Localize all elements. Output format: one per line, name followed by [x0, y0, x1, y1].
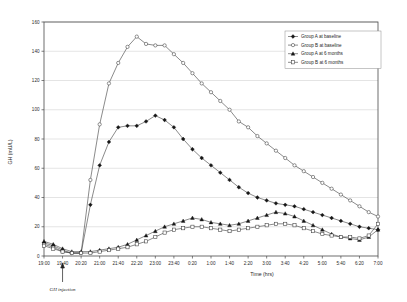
marker-4-23	[256, 225, 259, 228]
marker-4-27	[293, 224, 296, 227]
marker-1-12	[153, 114, 157, 118]
marker-4-29	[311, 230, 314, 233]
marker-2-15	[182, 61, 185, 64]
marker-4-28	[302, 227, 305, 230]
series-line-3	[44, 212, 378, 251]
marker-legend-4	[291, 61, 294, 64]
marker-4-7	[107, 249, 110, 252]
marker-4-15	[182, 227, 185, 230]
marker-3-12	[153, 229, 157, 232]
x-tick-label: 1:40	[225, 261, 234, 266]
marker-4-34	[358, 237, 361, 240]
marker-2-19	[219, 99, 222, 102]
marker-4-26	[284, 222, 287, 225]
marker-2-34	[358, 205, 361, 208]
x-tick-label: 23:00	[150, 261, 162, 266]
marker-4-17	[200, 225, 203, 228]
marker-1-29	[311, 210, 315, 214]
x-tick-label: 21:40	[112, 261, 124, 266]
chart-legend: Group A at baselineGroup B at baselineGr…	[285, 31, 381, 68]
series-3	[42, 210, 380, 253]
marker-2-14	[172, 53, 175, 56]
marker-4-21	[237, 228, 240, 231]
y-axis-ticks: 020406080100120140160	[32, 20, 44, 259]
marker-2-32	[339, 193, 342, 196]
x-tick-label: 7:00	[374, 261, 383, 266]
marker-4-3	[70, 251, 73, 254]
series-1	[42, 114, 380, 255]
marker-4-1	[52, 247, 55, 250]
x-tick-label: 21:00	[94, 261, 106, 266]
marker-2-18	[209, 91, 212, 94]
marker-2-35	[367, 210, 370, 213]
marker-1-27	[293, 204, 297, 208]
marker-2-12	[154, 44, 157, 47]
marker-1-9	[126, 124, 130, 128]
x-axis-title: Time (hrs)	[250, 271, 274, 277]
marker-4-19	[219, 228, 222, 231]
x-tick-label: 20:20	[75, 261, 87, 266]
marker-4-33	[349, 235, 352, 238]
marker-2-17	[200, 82, 203, 85]
marker-legend-2	[291, 43, 294, 46]
marker-2-7	[107, 82, 110, 85]
marker-2-26	[284, 156, 287, 159]
y-tick-label: 140	[32, 49, 40, 54]
marker-2-5	[89, 178, 92, 181]
x-tick-label: 5:40	[336, 261, 345, 266]
y-axis-title: GH (mU/L)	[7, 139, 13, 164]
marker-4-20	[228, 230, 231, 233]
marker-3-11	[144, 234, 148, 237]
marker-1-11	[144, 120, 148, 124]
x-tick-label: 23:40	[168, 261, 180, 266]
marker-2-22	[246, 126, 249, 129]
chart-canvas: 020406080100120140160 19:0019:4020:2021:…	[0, 0, 407, 302]
marker-4-9	[126, 246, 129, 249]
marker-1-23	[255, 196, 259, 200]
series-4	[42, 222, 379, 254]
marker-2-6	[98, 123, 101, 126]
marker-2-28	[302, 170, 305, 173]
marker-3-28	[302, 219, 306, 222]
marker-2-33	[349, 199, 352, 202]
marker-4-22	[247, 227, 250, 230]
legend-label-2: Group B at baseline	[301, 43, 342, 48]
marker-3-9	[126, 242, 130, 245]
marker-3-0	[42, 239, 46, 242]
marker-3-29	[311, 223, 315, 226]
marker-4-36	[376, 222, 379, 225]
marker-2-9	[126, 45, 129, 48]
marker-1-8	[116, 125, 120, 129]
annotation-1: GH injection	[50, 263, 76, 292]
marker-4-13	[163, 231, 166, 234]
x-tick-label: 0:20	[188, 261, 197, 266]
x-tick-label: 2:20	[244, 261, 253, 266]
legend-label-1: Group A at baseline	[301, 34, 342, 39]
marker-1-6	[98, 163, 102, 167]
x-axis-ticks: 19:0019:4020:2021:0021:4022:2023:0023:40…	[38, 256, 383, 266]
marker-4-10	[135, 243, 138, 246]
marker-2-27	[293, 164, 296, 167]
y-tick-label: 60	[34, 166, 40, 171]
marker-4-4	[80, 251, 83, 254]
y-tick-label: 120	[32, 78, 40, 83]
marker-4-5	[89, 251, 92, 254]
marker-2-20	[228, 108, 231, 111]
y-tick-label: 100	[32, 107, 40, 112]
marker-3-30	[320, 228, 324, 231]
x-tick-label: 6:20	[355, 261, 364, 266]
marker-3-16	[191, 216, 195, 219]
marker-4-8	[117, 247, 120, 250]
marker-3-25	[274, 210, 278, 213]
marker-2-8	[117, 61, 120, 64]
marker-1-32	[339, 219, 343, 223]
annotation-label-gh-injection: GH injection	[50, 287, 76, 292]
marker-3-2	[61, 247, 65, 250]
marker-4-25	[274, 222, 277, 225]
x-tick-label: 4:20	[299, 261, 308, 266]
marker-2-36	[376, 215, 379, 218]
marker-2-29	[311, 175, 314, 178]
chart-annotations: GH injection	[50, 263, 76, 292]
marker-1-31	[330, 216, 334, 220]
y-tick-label: 40	[34, 195, 40, 200]
